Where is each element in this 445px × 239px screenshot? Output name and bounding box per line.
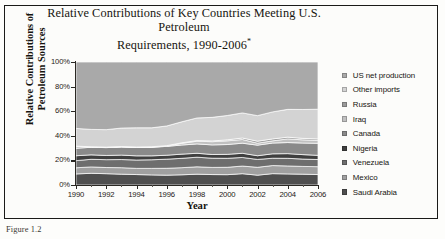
x-axis-tick-label: 2006 [301, 190, 335, 199]
plot-area [76, 62, 318, 185]
x-axis-tick [197, 185, 198, 189]
legend-swatch-icon [342, 175, 347, 180]
x-axis-minor-tick [121, 185, 122, 187]
legend-label: Saudi Arabia [353, 188, 397, 197]
y-axis-tick [71, 62, 76, 63]
x-axis-tick [106, 185, 107, 189]
x-axis-tick-label: 2002 [241, 190, 275, 199]
legend-item[interactable]: Nigeria [342, 141, 440, 156]
legend-label: Venezuela [353, 158, 389, 167]
legend-swatch-icon [342, 146, 347, 151]
chart-title: Relative Contributions of Key Countries … [34, 6, 334, 52]
legend-label: Canada [353, 129, 380, 138]
legend-item[interactable]: Mexico [342, 170, 440, 185]
x-axis-tick-label: 2004 [271, 190, 305, 199]
x-axis-tick-label: 1990 [59, 190, 93, 199]
legend-swatch-icon [342, 73, 347, 78]
legend-item[interactable]: Other imports [342, 83, 440, 98]
x-axis-tick [288, 185, 289, 189]
y-axis-labels: 0%20%40%60%80%100% [32, 0, 70, 200]
x-axis-minor-tick [273, 185, 274, 187]
title-footnote-marker: * [247, 37, 251, 46]
x-axis-minor-tick [212, 185, 213, 187]
x-axis-minor-tick [182, 185, 183, 187]
legend-swatch-icon [342, 102, 347, 107]
legend-item[interactable]: Canada [342, 126, 440, 141]
legend-item[interactable]: Russia [342, 97, 440, 112]
x-axis-minor-tick [242, 185, 243, 187]
legend-label: Iraq [353, 115, 366, 124]
area-band-saudi-arabia [76, 173, 318, 185]
legend-swatch-icon [342, 87, 347, 92]
x-axis-tick [258, 185, 259, 189]
y-axis-tick [71, 136, 76, 137]
legend-item[interactable]: Venezuela [342, 156, 440, 171]
x-axis-tick-label: 1994 [120, 190, 154, 199]
y-axis-tick-label: 60% [36, 106, 70, 115]
y-axis-tick [71, 160, 76, 161]
legend-label: Nigeria [353, 144, 378, 153]
y-axis-tick-label: 100% [36, 57, 70, 66]
legend-item[interactable]: Iraq [342, 112, 440, 127]
legend-swatch-icon [342, 131, 347, 136]
x-axis-minor-tick [91, 185, 92, 187]
x-axis-tick-label: 2000 [210, 190, 244, 199]
figure-container: Relative Contributions of Key Countries … [0, 0, 445, 239]
y-axis-tick [71, 111, 76, 112]
legend-label: US net production [353, 71, 415, 80]
x-axis-minor-tick [303, 185, 304, 187]
stacked-area-chart [76, 62, 318, 185]
legend-label: Other imports [353, 85, 400, 94]
x-axis-tick [137, 185, 138, 189]
x-axis-tick [318, 185, 319, 189]
chart-legend: US net productionOther importsRussiaIraq… [342, 68, 440, 199]
x-axis-tick-label: 1992 [89, 190, 123, 199]
x-axis-tick-label: 1996 [150, 190, 184, 199]
chart-title-line2: Requirements, 1990-2006* [34, 35, 334, 53]
y-axis-tick-label: 40% [36, 131, 70, 140]
legend-swatch-icon [342, 116, 347, 121]
x-axis-tick-label: 1998 [180, 190, 214, 199]
legend-swatch-icon [342, 189, 347, 194]
x-axis-tick [167, 185, 168, 189]
legend-swatch-icon [342, 160, 347, 165]
y-axis-tick-label: 80% [36, 82, 70, 91]
y-axis-tick-label: 20% [36, 155, 70, 164]
y-axis-tick [71, 87, 76, 88]
y-axis-tick-label: 0% [36, 180, 70, 189]
legend-item[interactable]: Saudi Arabia [342, 185, 440, 200]
legend-label: Mexico [353, 173, 378, 182]
figure-caption: Figure 1.2 [6, 225, 41, 234]
chart-title-line1: Relative Contributions of Key Countries … [47, 6, 321, 34]
x-axis-minor-tick [152, 185, 153, 187]
x-axis-tick [227, 185, 228, 189]
x-axis-tick [76, 185, 77, 189]
legend-label: Russia [353, 100, 377, 109]
x-axis-title: Year [76, 200, 318, 211]
legend-item[interactable]: US net production [342, 68, 440, 83]
